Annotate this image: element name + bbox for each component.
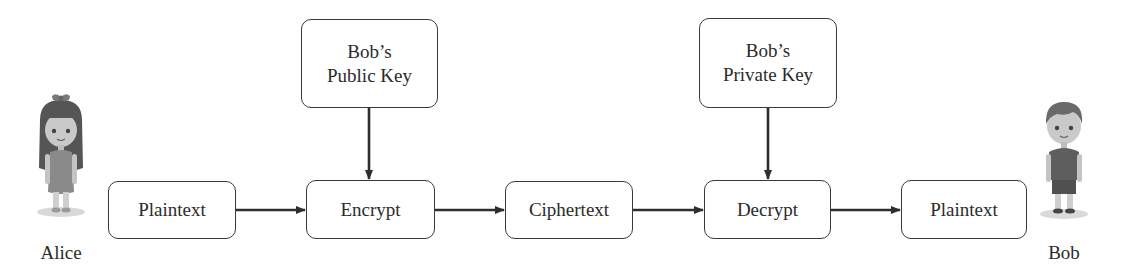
encrypt-box: Encrypt [306,180,435,239]
plaintext-output-label: Plaintext [930,198,998,222]
alice-avatar [34,90,88,220]
decrypt-box: Decrypt [704,180,831,239]
private-key-box: Bob’s Private Key [699,18,837,108]
private-key-owner: Bob’s [723,39,813,63]
bob-avatar [1037,94,1091,222]
private-key-label: Private Key [723,63,813,87]
public-key-box: Bob’s Public Key [301,19,438,108]
encrypt-label: Encrypt [340,198,400,222]
plaintext-input-label: Plaintext [138,198,206,222]
plaintext-output-box: Plaintext [901,180,1027,239]
ciphertext-label: Ciphertext [529,198,609,222]
bob-label: Bob [1034,242,1094,264]
ciphertext-box: Ciphertext [505,181,633,239]
public-key-owner: Bob’s [327,40,412,64]
alice-label: Alice [28,242,94,264]
public-key-label: Public Key [327,64,412,88]
boy-avatar-icon [1037,94,1091,222]
decrypt-label: Decrypt [737,198,798,222]
girl-avatar-icon [34,90,88,220]
plaintext-input-box: Plaintext [108,181,236,239]
